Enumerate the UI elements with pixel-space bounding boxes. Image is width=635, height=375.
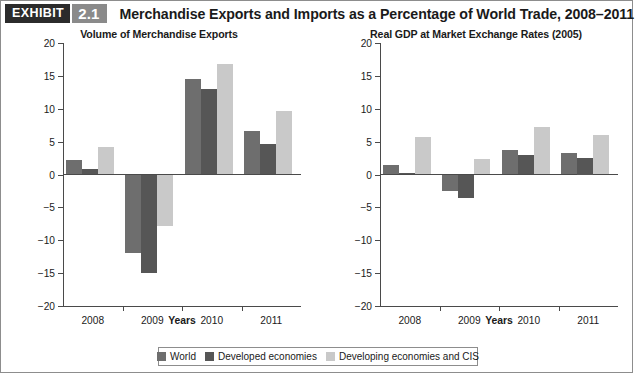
bar xyxy=(474,159,490,174)
y-axis-tick xyxy=(58,76,63,77)
y-axis-tick xyxy=(58,207,63,208)
y-axis-tick-label: −5 xyxy=(360,202,372,213)
y-axis-tick-label: −20 xyxy=(355,301,372,312)
legend-swatch-icon xyxy=(326,352,335,361)
exhibit-figure: EXHIBIT 2.1 Merchandise Exports and Impo… xyxy=(0,0,633,373)
x-axis-tick xyxy=(499,306,500,311)
bar xyxy=(98,147,114,175)
bar xyxy=(399,173,415,175)
y-axis-tick xyxy=(58,43,63,44)
x-axis-title-exports: Years xyxy=(63,315,301,326)
plot-area-gdp: 20151050−5−10−15−202008200920102011 xyxy=(380,43,618,306)
y-axis-tick-label: 20 xyxy=(361,38,372,49)
exhibit-number: 2.1 xyxy=(72,4,106,24)
legend-swatch-icon xyxy=(157,352,166,361)
y-axis-tick xyxy=(375,175,380,176)
bar xyxy=(593,135,609,174)
x-axis-tick xyxy=(440,306,441,311)
chart-panel-gdp: Real GDP at Market Exchange Rates (2005)… xyxy=(318,26,634,336)
bar xyxy=(66,160,82,174)
bar xyxy=(442,175,458,191)
y-axis-tick xyxy=(58,240,63,241)
x-axis-tick xyxy=(242,306,243,311)
bar xyxy=(518,155,534,174)
y-axis-tick-label: 0 xyxy=(366,169,372,180)
chart-legend: WorldDeveloped economiesDeveloping econo… xyxy=(158,347,478,366)
y-axis-tick-label: −5 xyxy=(43,202,55,213)
exhibit-title: Merchandise Exports and Imports as a Per… xyxy=(120,6,634,22)
bar xyxy=(577,158,593,174)
y-axis-tick-label: 5 xyxy=(49,136,55,147)
bar xyxy=(157,175,173,227)
bar xyxy=(141,175,157,274)
y-axis-tick xyxy=(375,306,380,307)
bar xyxy=(125,175,141,254)
y-axis-tick-label: 5 xyxy=(366,136,372,147)
y-axis-tick-label: 15 xyxy=(361,70,372,81)
y-axis-tick-label: 10 xyxy=(44,103,55,114)
x-axis-tick xyxy=(559,306,560,311)
y-axis-tick-label: −15 xyxy=(355,268,372,279)
bar xyxy=(458,175,474,198)
bar xyxy=(415,137,431,174)
x-axis-tick xyxy=(182,306,183,311)
y-axis-tick-label: 20 xyxy=(44,38,55,49)
legend-swatch-icon xyxy=(205,352,214,361)
bar xyxy=(276,111,292,175)
y-axis-tick xyxy=(58,273,63,274)
y-axis-tick xyxy=(375,43,380,44)
y-axis-tick-label: 0 xyxy=(49,169,55,180)
y-axis-tick xyxy=(375,109,380,110)
legend-item: World xyxy=(157,351,196,362)
bar xyxy=(244,131,260,174)
legend-item: Developing economies and CIS xyxy=(326,351,479,362)
legend-item: Developed economies xyxy=(205,351,317,362)
chart-panel-exports: Volume of Merchandise Exports 20151050−5… xyxy=(1,26,317,336)
exhibit-tag: EXHIBIT xyxy=(5,4,70,23)
y-axis-tick-label: −20 xyxy=(38,301,55,312)
y-axis-tick xyxy=(375,76,380,77)
x-axis-tick xyxy=(123,306,124,311)
y-axis-tick xyxy=(58,175,63,176)
bar xyxy=(217,64,233,174)
y-axis-tick xyxy=(375,142,380,143)
legend-label: Developed economies xyxy=(218,351,317,362)
y-axis-tick-label: −15 xyxy=(38,268,55,279)
y-axis-tick-label: 10 xyxy=(361,103,372,114)
y-axis-tick xyxy=(58,109,63,110)
bar xyxy=(185,79,201,175)
legend-label: Developing economies and CIS xyxy=(339,351,479,362)
y-axis-tick-label: −10 xyxy=(38,235,55,246)
bar xyxy=(260,144,276,175)
y-axis-tick xyxy=(375,207,380,208)
y-axis-tick xyxy=(58,142,63,143)
bar xyxy=(534,127,550,174)
y-axis-tick xyxy=(58,306,63,307)
y-axis-tick xyxy=(375,273,380,274)
plot-area-exports: 20151050−5−10−15−202008200920102011 xyxy=(63,43,301,306)
bar xyxy=(82,169,98,174)
exhibit-header: EXHIBIT 2.1 Merchandise Exports and Impo… xyxy=(1,1,634,26)
bar xyxy=(561,153,577,175)
legend-label: World xyxy=(170,351,196,362)
x-axis-title-gdp: Years xyxy=(380,315,618,326)
y-axis-tick xyxy=(375,240,380,241)
bar xyxy=(383,165,399,175)
bar xyxy=(201,89,217,174)
bar xyxy=(502,150,518,175)
y-axis-tick-label: −10 xyxy=(355,235,372,246)
y-axis-tick-label: 15 xyxy=(44,70,55,81)
